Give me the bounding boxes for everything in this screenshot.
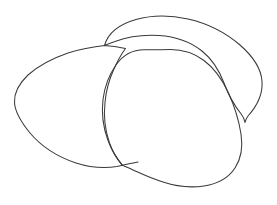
line-drawing-svg bbox=[0, 0, 277, 205]
canvas-background bbox=[0, 0, 277, 205]
drawing-canvas bbox=[0, 0, 277, 205]
